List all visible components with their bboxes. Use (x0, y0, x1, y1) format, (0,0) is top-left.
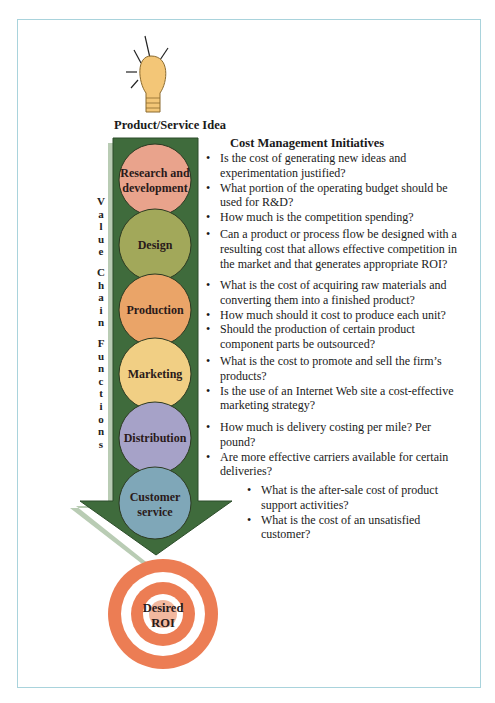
label-desired-roi: DesiredROI (133, 601, 193, 631)
initiative-item: What is the cost to promote and sell the… (204, 354, 466, 384)
initiatives-distribution: How much is delivery costing per mile? P… (204, 420, 466, 479)
initiative-item: What is the after-sale cost of product s… (245, 483, 445, 513)
initiative-item: How much is delivery costing per mile? P… (204, 420, 466, 450)
label-distribution: Distribution (115, 431, 195, 446)
initiative-item: How much should it cost to produce each … (204, 308, 466, 323)
label-research-development: Research anddevelopment (115, 166, 195, 196)
label-customer-service: Customerservice (115, 490, 195, 520)
initiative-item: Can a product or process flow be designe… (204, 227, 474, 271)
value-chain-functions-label: Value Chain Functions (94, 195, 108, 450)
initiative-item: What portion of the operating budget sho… (204, 181, 469, 211)
initiative-item: Is the cost of generating new ideas and … (204, 151, 469, 181)
initiatives-title: Cost Management Initiatives (230, 136, 384, 151)
initiative-item: Are more effective carriers available fo… (204, 450, 466, 480)
initiative-item: Should the production of certain product… (204, 322, 466, 352)
lightbulb-icon (126, 36, 168, 112)
initiatives-production: What is the cost of acquiring raw materi… (204, 278, 466, 352)
product-service-idea-label: Product/Service Idea (100, 118, 240, 133)
label-design: Design (115, 238, 195, 253)
initiatives-design: Can a product or process flow be designe… (204, 227, 474, 271)
label-marketing: Marketing (115, 367, 195, 382)
initiatives-customer-service: What is the after-sale cost of product s… (245, 483, 445, 542)
initiatives-research: Is the cost of generating new ideas and … (204, 151, 469, 225)
initiative-item: What is the cost of an unsatisfied custo… (245, 513, 445, 543)
initiative-item: What is the cost of acquiring raw materi… (204, 278, 466, 308)
label-production: Production (115, 303, 195, 318)
initiative-item: Is the use of an Internet Web site a cos… (204, 384, 466, 414)
initiatives-marketing: What is the cost to promote and sell the… (204, 354, 466, 413)
initiative-item: How much is the competition spending? (204, 210, 469, 225)
